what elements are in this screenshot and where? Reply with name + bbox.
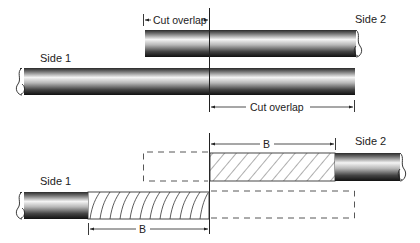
top-panel: Side 2 Side 1 Cut overlap Cut overlap [16, 8, 386, 113]
splice-diagram-svg: Side 2 Side 1 Cut overlap Cut overlap [0, 0, 420, 243]
side1-label-top: Side 1 [40, 52, 71, 64]
cut-overlap-label-top: Cut overlap [153, 14, 207, 26]
removed-section-upper [144, 152, 209, 181]
side1-pipe-top [16, 68, 355, 95]
cut-overlap-dimension-top: Cut overlap [144, 14, 209, 26]
hatched-section-side2 [210, 153, 335, 181]
bottom-panel: Side 2 B [16, 133, 405, 235]
b-label-top: B [263, 138, 270, 150]
side2-label-bottom: Side 2 [355, 135, 386, 147]
side2-pipe-bottom [335, 153, 406, 181]
cut-overlap-dimension-bottom: Cut overlap [211, 100, 355, 113]
side2-pipe-top [145, 30, 362, 57]
b-dimension-bottom: B [89, 223, 209, 235]
splice-diagram: Side 2 Side 1 Cut overlap Cut overlap [0, 0, 420, 243]
removed-section-lower [211, 191, 355, 218]
side1-pipe-bottom [16, 192, 88, 219]
twisted-section-side1 [88, 192, 209, 219]
b-label-bottom: B [139, 223, 146, 235]
b-dimension-top: B [211, 138, 336, 150]
side1-label-bottom: Side 1 [40, 175, 71, 187]
cut-overlap-label-bottom: Cut overlap [250, 101, 304, 113]
side2-label-top: Side 2 [355, 13, 386, 25]
